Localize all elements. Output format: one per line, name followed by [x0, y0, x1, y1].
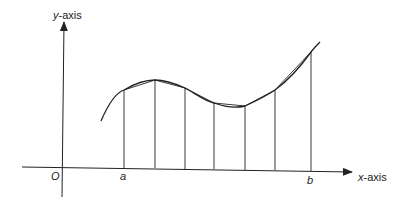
- a-bound-label: a: [120, 170, 126, 182]
- x-axis-label-text: -axis: [364, 171, 387, 183]
- origin-label: O: [51, 170, 60, 182]
- y-axis-label-text: -axis: [59, 9, 82, 21]
- partition-ordinates: [124, 52, 311, 171]
- trapezoid-chord: [124, 80, 155, 90]
- trapezoid-chord: [275, 52, 311, 90]
- diagram-canvas: [0, 0, 402, 209]
- y-axis-line: [62, 22, 64, 197]
- trapezoid-chord: [155, 80, 185, 88]
- axes: [22, 22, 352, 197]
- b-bound-label: b: [307, 174, 313, 186]
- trapezoid-rule-diagram: y-axis x-axis O a b: [0, 0, 402, 209]
- y-axis-label: y-axis: [53, 9, 82, 21]
- trapezoid-chords: [124, 52, 311, 106]
- x-axis-line: [22, 167, 352, 172]
- x-axis-label: x-axis: [358, 171, 387, 183]
- function-curve: [101, 42, 320, 121]
